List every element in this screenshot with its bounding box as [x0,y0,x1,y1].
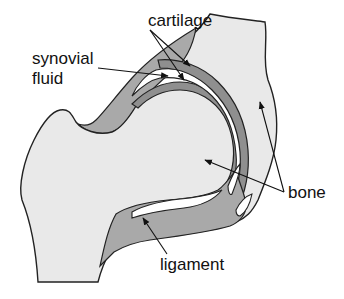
label-synovial: synovial [32,49,93,68]
label-ligament: ligament [160,255,225,274]
label-bone: bone [288,183,326,202]
hip-joint-diagram: cartilage synovial fluid bone ligament [0,0,344,299]
label-cartilage: cartilage [148,11,212,30]
label-fluid: fluid [32,69,63,88]
